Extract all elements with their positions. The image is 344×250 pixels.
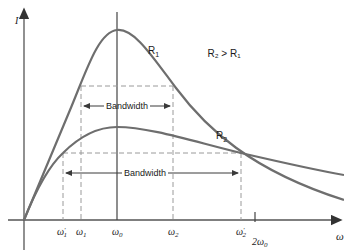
- y-axis-label: I: [14, 15, 19, 26]
- tick-omega2-prime: ω′2: [236, 226, 247, 239]
- r1-bandwidth-label: Bandwidth: [106, 101, 148, 111]
- tick-omega2: ω2: [168, 226, 179, 239]
- resonance-diagram: Bandwidth Bandwidth I ω R1 R₂ > R₁ R2 ω′…: [0, 0, 344, 250]
- tick-two-omega0: 2ω0: [252, 236, 268, 249]
- curve-r1: [24, 30, 344, 220]
- tick-omega0: ω0: [112, 226, 123, 239]
- r2-bandwidth-label: Bandwidth: [124, 168, 166, 178]
- x-axis-label: ω: [336, 230, 344, 242]
- r2-bandwidth-guides: [63, 153, 241, 220]
- r2-label: R2: [216, 130, 227, 143]
- condition-label: R₂ > R₁: [207, 48, 241, 59]
- tick-omega1: ω1: [76, 226, 87, 239]
- r1-label: R1: [148, 45, 159, 58]
- tick-omega1-prime: ω′1: [57, 226, 67, 239]
